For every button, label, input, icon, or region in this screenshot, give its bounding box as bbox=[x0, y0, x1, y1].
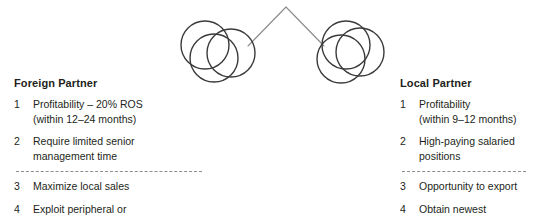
list-item: 2High-paying salaried positions bbox=[400, 134, 535, 163]
list-item-text: High-paying salaried positions bbox=[419, 134, 515, 163]
list-item: 2Require limited senior management time bbox=[14, 134, 214, 163]
list-item: 3Maximize local sales bbox=[14, 179, 214, 194]
list-item: 1Profitability (within 9–12 months) bbox=[400, 97, 535, 126]
list-item: 1Profitability – 20% ROS (within 12–24 m… bbox=[14, 97, 214, 126]
list-item-number: 2 bbox=[14, 134, 33, 149]
list-item-text: Obtain newest technology bbox=[419, 202, 486, 219]
list-item-text: Opportunity to export bbox=[419, 179, 517, 194]
list-item: 4Exploit peripheral or mature technology bbox=[14, 202, 214, 219]
list-item-number: 3 bbox=[14, 179, 33, 194]
local-partner-column: Local Partner 1Profitability (within 9–1… bbox=[400, 76, 535, 218]
list-item-number: 1 bbox=[14, 97, 33, 112]
dashed-separator bbox=[402, 171, 526, 172]
list-item: 4Obtain newest technology bbox=[400, 202, 535, 219]
list-item-number: 2 bbox=[400, 134, 419, 149]
foreign-partner-heading: Foreign Partner bbox=[14, 76, 214, 90]
dashed-separator bbox=[16, 171, 202, 172]
list-item-number: 4 bbox=[400, 202, 419, 217]
list-item-number: 4 bbox=[14, 202, 33, 217]
chevron-apex bbox=[248, 7, 324, 46]
venn-circle bbox=[181, 21, 229, 69]
foreign-partner-item-list: 1Profitability – 20% ROS (within 12–24 m… bbox=[14, 97, 214, 218]
list-item-number: 1 bbox=[400, 97, 419, 112]
list-item-text: Profitability (within 9–12 months) bbox=[419, 97, 516, 126]
list-item-text: Profitability – 20% ROS (within 12–24 mo… bbox=[33, 97, 143, 126]
foreign-partner-circles bbox=[181, 21, 255, 82]
venn-circle bbox=[207, 29, 255, 77]
list-item-text: Maximize local sales bbox=[33, 179, 129, 194]
list-item-text: Require limited senior management time bbox=[33, 134, 135, 163]
venn-circle bbox=[336, 28, 384, 76]
list-item-text: Exploit peripheral or mature technology bbox=[33, 202, 126, 219]
list-item-number: 3 bbox=[400, 179, 419, 194]
venn-circle bbox=[190, 34, 238, 82]
foreign-partner-column: Foreign Partner 1Profitability – 20% ROS… bbox=[14, 76, 214, 218]
local-partner-item-list: 1Profitability (within 9–12 months)2High… bbox=[400, 97, 535, 218]
local-partner-heading: Local Partner bbox=[400, 76, 535, 90]
list-item: 3Opportunity to export bbox=[400, 179, 535, 194]
local-partner-circles bbox=[317, 21, 384, 83]
